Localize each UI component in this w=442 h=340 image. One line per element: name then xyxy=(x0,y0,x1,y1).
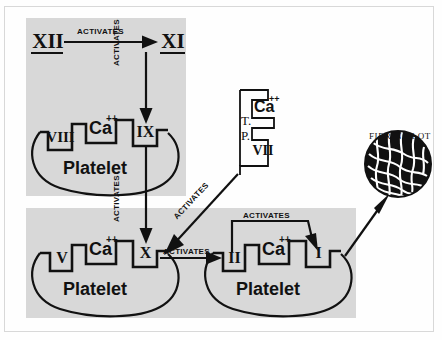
arrow-xi-to-ix-label: ACTIVATES xyxy=(112,19,121,66)
arrow-ii-to-i-label: ACTIVATES xyxy=(243,211,290,220)
factor-ix: IX xyxy=(135,122,156,142)
fibrin-clot-label: FIBRIN CLOT xyxy=(369,131,431,141)
factor-xii: XII xyxy=(30,28,66,54)
common-pathway-panel xyxy=(26,208,356,318)
calcium-superscript-tissue: ++ xyxy=(269,94,280,104)
calcium-superscript-lower-left: ++ xyxy=(106,234,118,245)
factor-x: X xyxy=(135,243,156,263)
arrow-x-to-ii-label: ACTIVATES xyxy=(163,247,210,256)
arrow-ix-to-x-label: ACTIVATES xyxy=(112,175,121,222)
factor-v: V xyxy=(52,248,72,268)
lower-right-platelet-label: Platelet xyxy=(236,279,300,300)
factor-xii-underline xyxy=(31,52,63,54)
upper-platelet-label: Platelet xyxy=(63,158,127,179)
coagulation-cascade-diagram: XII XI ACTIVATES ACTIVATES ACTIVATES ACT… xyxy=(0,0,442,340)
lower-left-platelet-label: Platelet xyxy=(63,279,127,300)
factor-xi: XI xyxy=(158,28,188,54)
tissue-factor-label-line2: P. xyxy=(241,128,250,144)
factor-ii: II xyxy=(224,248,245,268)
factor-xi-underline xyxy=(160,52,185,54)
calcium-superscript-upper: ++ xyxy=(106,113,118,124)
calcium-superscript-lower-right: ++ xyxy=(279,234,291,245)
factor-i: I xyxy=(308,243,329,263)
factor-viii: VIII xyxy=(50,127,71,147)
factor-vii: VII xyxy=(252,142,274,160)
tissue-factor-label-line1: T. xyxy=(241,113,251,129)
